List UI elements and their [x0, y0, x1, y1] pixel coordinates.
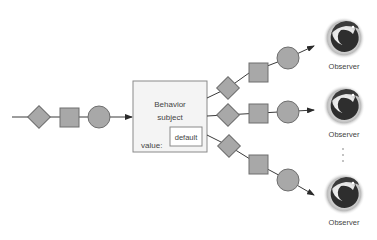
- circle-event: [88, 106, 110, 128]
- square-event: [249, 155, 268, 174]
- subject-title-line1: Behavior: [154, 100, 186, 109]
- default-value: default: [175, 133, 198, 142]
- behavior-subject-diagram: Behavior subject value: default Observer…: [0, 0, 377, 240]
- diamond-event: [218, 135, 241, 158]
- diamond-event: [217, 104, 240, 127]
- observer-2: Observer: [323, 85, 365, 139]
- square-event: [249, 104, 268, 123]
- value-label: value:: [141, 141, 162, 150]
- square-event: [249, 63, 268, 82]
- observer-label: Observer: [329, 62, 360, 71]
- circle-event: [277, 101, 299, 123]
- input-stream: [12, 106, 132, 129]
- square-event: [60, 108, 79, 127]
- reactive-logo-icon: [323, 17, 365, 59]
- output-stream-2: [207, 101, 314, 126]
- reactive-logo-icon: [323, 85, 365, 127]
- observer-3: Observer: [323, 173, 365, 227]
- circle-event: [277, 47, 299, 69]
- circle-event: [277, 169, 299, 191]
- behavior-subject-box: Behavior subject value: default: [133, 81, 207, 152]
- output-stream-1: [207, 46, 314, 99]
- ellipsis: [342, 148, 344, 162]
- subject-title-line2: subject: [157, 113, 183, 122]
- observer-label: Observer: [329, 130, 360, 139]
- diamond-event: [217, 77, 240, 100]
- observer-1: Observer: [323, 17, 365, 71]
- reactive-logo-icon: [323, 173, 365, 215]
- observer-label: Observer: [329, 218, 360, 227]
- diamond-event: [28, 106, 51, 129]
- output-stream-3: [207, 135, 314, 195]
